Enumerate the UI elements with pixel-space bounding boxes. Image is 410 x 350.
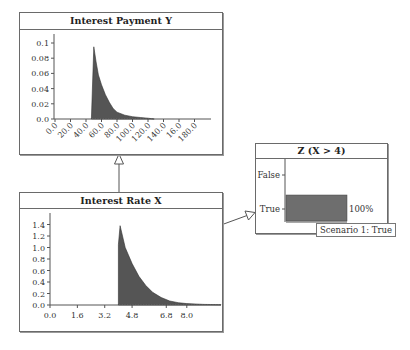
svg-text:0.02: 0.02 [31,100,49,109]
interest-rate-histogram: 1.41.21.00.80.60.40.20.00.01.63.24.86.88… [20,209,222,331]
svg-text:0.2: 0.2 [32,290,45,299]
svg-text:0.0: 0.0 [32,301,45,310]
arrowhead-up-icon [115,154,124,164]
svg-text:3.2: 3.2 [98,311,111,320]
category-true: True [260,204,280,214]
svg-text:4.8: 4.8 [126,311,139,320]
svg-text:40.0: 40.0 [71,121,90,140]
node-interest-payment-y[interactable]: Interest Payment Y 0.10.080.060.040.020.… [19,12,223,155]
svg-text:0.1: 0.1 [36,39,49,48]
category-false: False [258,170,281,180]
node-interest-rate-x[interactable]: Interest Rate X 1.41.21.00.80.60.40.20.0… [19,192,223,332]
svg-text:0.0: 0.0 [44,311,57,320]
arrow-x-to-z [221,216,247,226]
node-z-x-gt-4[interactable]: Z (X > 4) False True 100% [255,143,388,234]
svg-text:0.0: 0.0 [36,115,49,124]
svg-text:1.0: 1.0 [32,244,45,253]
svg-text:20.0: 20.0 [56,121,75,140]
true-bar [286,195,347,221]
svg-text:8.0: 8.0 [180,311,193,320]
z-bar-chart: False True 100% [256,159,387,233]
svg-text:6.8: 6.8 [160,311,173,320]
node-title: Interest Rate X [20,193,222,209]
svg-text:60.0: 60.0 [87,121,106,140]
svg-text:0.6: 0.6 [32,267,45,276]
node-title: Z (X > 4) [256,144,387,159]
node-title: Interest Payment Y [20,13,222,30]
svg-text:0.4: 0.4 [32,278,45,287]
svg-text:0.04: 0.04 [31,85,49,94]
svg-text:0.8: 0.8 [32,255,45,264]
svg-text:0.06: 0.06 [31,69,49,78]
svg-text:1.4: 1.4 [32,221,45,230]
true-percent-label: 100% [349,204,373,214]
svg-text:0.08: 0.08 [31,54,49,63]
arrowhead-right-icon [245,211,255,220]
scenario-label: Scenario 1: True [316,223,396,237]
interest-payment-histogram: 0.10.080.060.040.020.00.020.040.060.080.… [20,30,222,155]
svg-text:1.2: 1.2 [32,232,45,241]
svg-text:1.6: 1.6 [71,311,84,320]
